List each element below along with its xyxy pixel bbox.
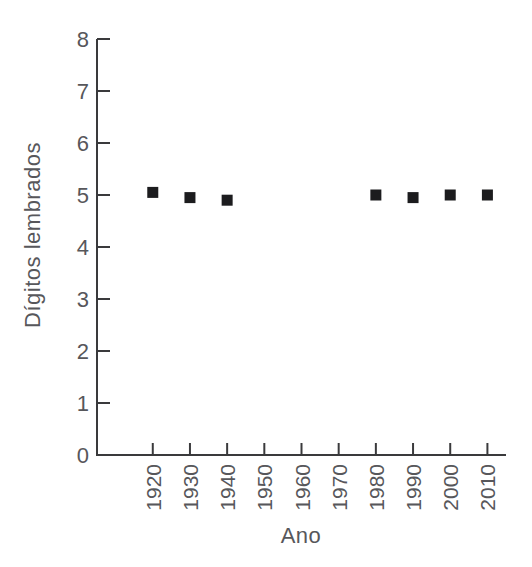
y-axis-tick-label: 8 <box>77 27 89 52</box>
y-axis-tick-label: 7 <box>77 79 89 104</box>
x-axis-tick-label: 1970 <box>328 464 351 511</box>
x-axis-tick-label: 1930 <box>179 464 202 511</box>
data-point-1920 <box>147 187 158 198</box>
y-axis-tick-label: 5 <box>77 183 89 208</box>
data-point-1980 <box>370 190 381 201</box>
x-axis-tick-label: 1990 <box>402 464 425 511</box>
x-axis-tick-label: 1960 <box>291 464 314 511</box>
x-axis-tick-label: 1920 <box>142 464 165 511</box>
x-axis-tick-label: 1950 <box>253 464 276 511</box>
y-axis-tick-label: 4 <box>77 235 89 260</box>
data-point-1990 <box>408 192 419 203</box>
y-axis-tick-label: 0 <box>77 443 89 468</box>
x-axis-tick-label: 1980 <box>365 464 388 511</box>
data-point-1940 <box>222 195 233 206</box>
y-axis-title: Dígitos lembrados <box>20 115 46 355</box>
x-axis-tick-label: 2010 <box>476 464 499 511</box>
x-axis-title: Ano <box>241 523 361 549</box>
chart-canvas: 0123456781920193019401950196019701980199… <box>0 0 532 567</box>
data-point-2000 <box>445 190 456 201</box>
x-axis-tick-label: 1940 <box>216 464 239 511</box>
data-point-2010 <box>482 190 493 201</box>
y-axis-tick-label: 1 <box>77 391 89 416</box>
y-axis-tick-label: 6 <box>77 131 89 156</box>
y-axis-tick-label: 2 <box>77 339 89 364</box>
x-axis-tick-label: 2000 <box>439 464 462 511</box>
data-point-1930 <box>184 192 195 203</box>
y-axis-tick-label: 3 <box>77 287 89 312</box>
scatter-figure: 0123456781920193019401950196019701980199… <box>0 0 532 567</box>
